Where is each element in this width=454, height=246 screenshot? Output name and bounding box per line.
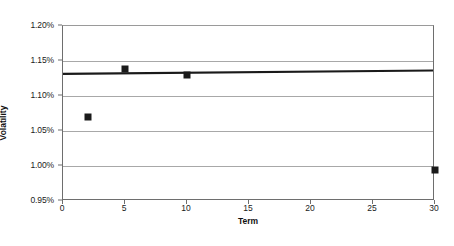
x-axis-tick-mark xyxy=(186,200,187,204)
x-axis-tick-label: 5 xyxy=(122,203,127,213)
x-axis-tick-mark xyxy=(124,200,125,204)
x-axis-tick-label: 10 xyxy=(181,203,190,213)
x-axis-tick-mark xyxy=(248,200,249,204)
x-axis-tick-group: 051015202530 xyxy=(0,0,454,246)
x-axis-tick-label: 25 xyxy=(367,203,376,213)
x-axis-tick-label: 15 xyxy=(243,203,252,213)
x-axis-tick-mark xyxy=(434,200,435,204)
x-axis-tick-mark xyxy=(62,200,63,204)
x-axis-title: Term xyxy=(238,216,258,226)
x-axis-tick-label: 20 xyxy=(305,203,314,213)
x-axis-tick-mark xyxy=(310,200,311,204)
volatility-term-scatter-chart: Volatility 0.95%1.00%1.05%1.10%1.15%1.20… xyxy=(0,0,454,246)
x-axis-tick-label: 0 xyxy=(60,203,65,213)
x-axis-tick-mark xyxy=(372,200,373,204)
x-axis-tick-label: 30 xyxy=(429,203,438,213)
